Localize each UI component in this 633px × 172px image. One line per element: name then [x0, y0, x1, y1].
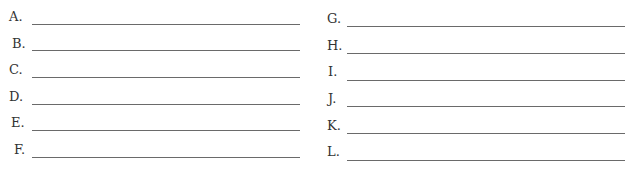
answer-label: L.	[327, 145, 340, 159]
answer-blank-h[interactable]	[347, 53, 625, 54]
answer-row-a: A.	[0, 10, 310, 37]
answer-label: K.	[327, 119, 341, 133]
answer-blank-k[interactable]	[347, 133, 625, 134]
answer-label: C.	[9, 63, 23, 77]
answer-blank-f[interactable]	[32, 157, 300, 158]
answer-row-k: K.	[318, 119, 633, 146]
answer-row-h: H.	[318, 39, 633, 66]
answer-row-c: C.	[0, 63, 310, 90]
answer-blank-b[interactable]	[32, 50, 300, 51]
answer-label: F.	[14, 143, 25, 157]
answer-label: H.	[327, 39, 342, 53]
answer-row-d: D.	[0, 90, 310, 117]
answer-blank-g[interactable]	[347, 26, 625, 27]
answer-blank-e[interactable]	[32, 130, 300, 131]
answer-row-f: F.	[0, 143, 310, 170]
answer-row-e: E.	[0, 116, 310, 143]
answer-row-l: L.	[318, 145, 633, 172]
answer-blank-c[interactable]	[32, 77, 300, 78]
answer-label: D.	[9, 90, 23, 104]
answer-label: E.	[11, 116, 25, 130]
answer-label: G.	[327, 12, 341, 26]
answer-blank-l[interactable]	[347, 160, 625, 161]
answer-blank-d[interactable]	[32, 104, 300, 105]
answer-label: B.	[12, 37, 26, 51]
answer-blank-j[interactable]	[347, 106, 625, 107]
answer-label: I.	[328, 65, 337, 79]
answer-row-i: I.	[318, 65, 633, 92]
answer-label: J.	[328, 92, 336, 106]
answer-row-b: B.	[0, 37, 310, 64]
answer-blank-a[interactable]	[32, 24, 300, 25]
answer-blank-i[interactable]	[347, 80, 625, 81]
answer-row-g: G.	[318, 12, 633, 39]
answer-label: A.	[9, 10, 23, 24]
answer-row-j: J.	[318, 92, 633, 119]
